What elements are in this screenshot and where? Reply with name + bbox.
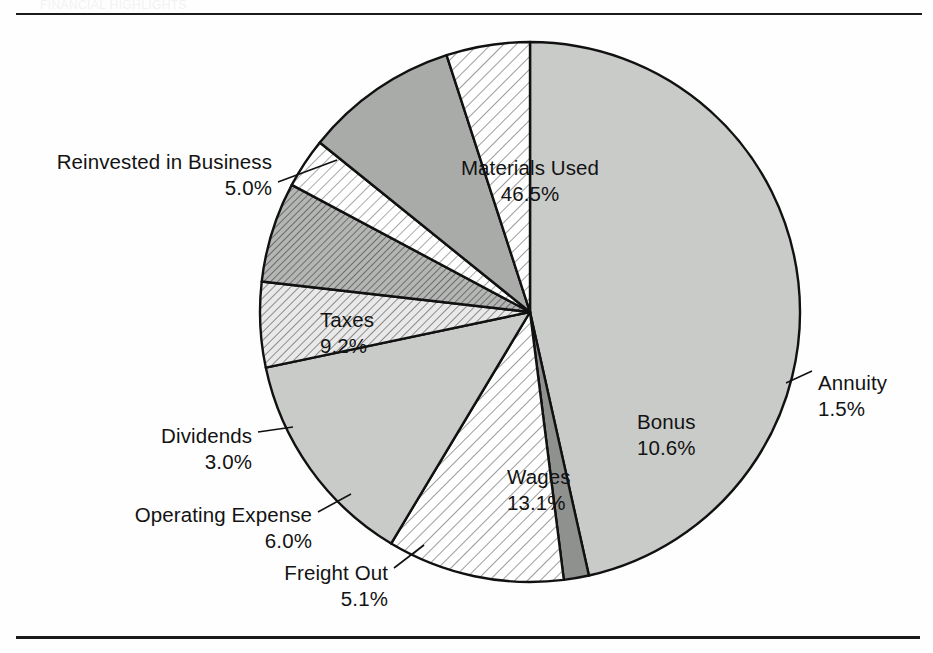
slice-label-name: Bonus: [637, 410, 696, 433]
slice-label: Annuity1.5%: [818, 370, 887, 422]
slice-label: Freight Out5.1%: [284, 560, 388, 612]
slice-label-name: Reinvested in Business: [57, 150, 272, 173]
slice-label-percent: 5.0%: [57, 175, 272, 201]
slice-label: Taxes9.2%: [320, 307, 374, 359]
slice-label-name: Materials Used: [461, 156, 599, 179]
slice-label-percent: 1.5%: [818, 396, 887, 422]
slice-label-percent: 3.0%: [161, 449, 252, 475]
slice-label-percent: 5.1%: [284, 586, 388, 612]
slice-label: Materials Used46.5%: [330, 155, 730, 207]
slice-label-name: Operating Expense: [135, 503, 312, 526]
slice-label: Reinvested in Business5.0%: [57, 149, 272, 201]
slice-label-name: Wages: [507, 465, 571, 488]
slice-label: Dividends3.0%: [161, 423, 252, 475]
bottom-horizontal-rule: [16, 636, 920, 639]
slice-label-percent: 6.0%: [135, 528, 312, 554]
chart-page: FINANCIAL HIGHLIGHTS Materials Used46.: [0, 0, 933, 653]
slice-label-name: Annuity: [818, 371, 887, 394]
slice-label-percent: 10.6%: [637, 435, 696, 461]
slice-label: Operating Expense6.0%: [135, 502, 312, 554]
pie-chart: [0, 0, 933, 653]
slice-label-percent: 13.1%: [507, 490, 571, 516]
slice-label: Bonus10.6%: [637, 409, 696, 461]
slice-label-name: Dividends: [161, 424, 252, 447]
slice-label: Wages13.1%: [507, 464, 571, 516]
slice-label-percent: 46.5%: [330, 181, 730, 207]
slice-label-name: Taxes: [320, 308, 374, 331]
slice-label-percent: 9.2%: [320, 333, 374, 359]
slice-label-name: Freight Out: [284, 561, 388, 584]
